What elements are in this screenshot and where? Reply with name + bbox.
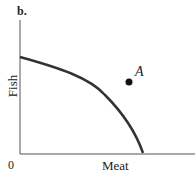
x-axis-label: Meat — [102, 158, 129, 174]
ppf-chart — [0, 0, 195, 177]
point-a-label: A — [135, 64, 144, 80]
origin-label: 0 — [8, 158, 14, 173]
y-axis-label: Fish — [5, 71, 21, 101]
panel-label: b. — [17, 4, 27, 19]
point-a-marker — [126, 79, 133, 86]
ppf-curve — [20, 57, 143, 153]
